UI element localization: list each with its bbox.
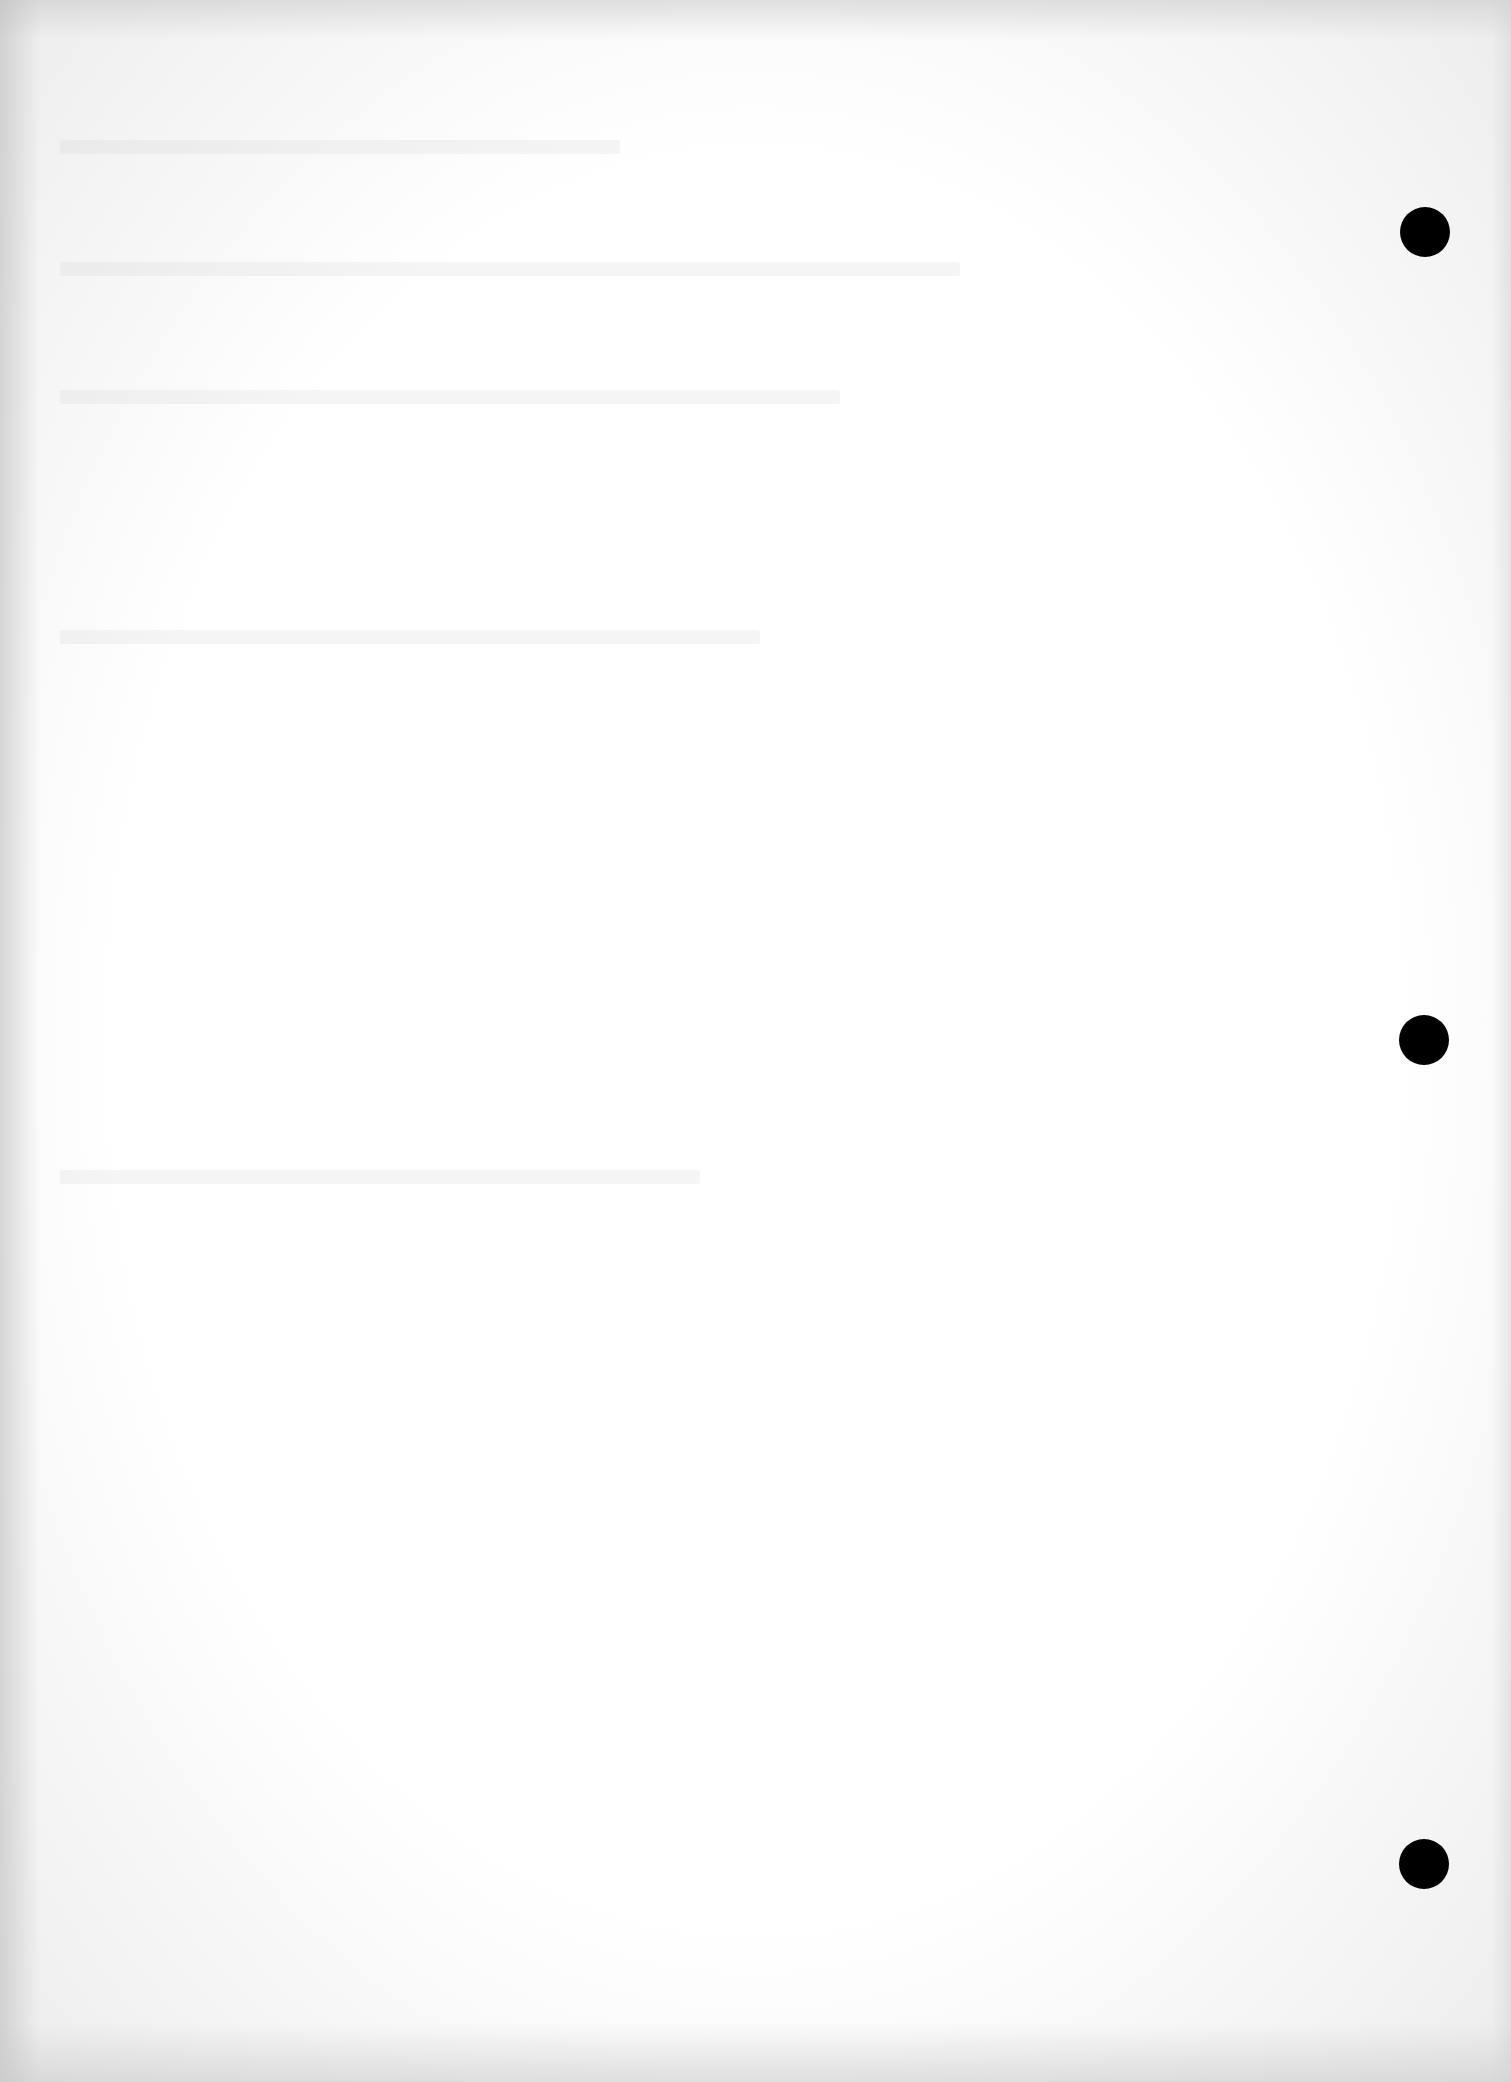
bleed-through-mark	[60, 630, 760, 644]
scan-edge-bottom	[0, 2022, 1511, 2082]
bleed-through-mark	[60, 390, 840, 404]
scan-edge-left	[0, 0, 40, 2082]
scan-edge-right	[1491, 0, 1511, 2082]
bleed-through-mark	[60, 262, 960, 276]
punch-hole-top	[1400, 207, 1450, 257]
bleed-through-mark	[60, 140, 620, 154]
bleed-through-mark	[60, 1170, 700, 1184]
punch-hole-bottom	[1399, 1839, 1449, 1889]
paper-sheet	[0, 0, 1511, 2082]
punch-hole-middle	[1399, 1015, 1449, 1065]
scan-edge-top	[0, 0, 1511, 40]
